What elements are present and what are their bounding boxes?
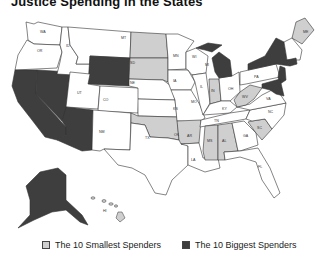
label-hi: HI [103,209,107,213]
state-wy [88,56,130,86]
label-va: VA [266,97,271,101]
label-ia: IA [173,79,177,83]
label-mo: MO [191,100,197,104]
legend-swatch-smallest [42,241,50,249]
label-in: IN [211,89,215,93]
us-map: WA OR ID MT SD NE CO UT NM TX OK AR LA M… [0,0,331,240]
label-id: ID [66,44,70,48]
label-oh: OH [228,87,234,91]
state-nm [92,110,131,151]
label-la: LA [191,158,196,162]
label-ky: KY [222,107,227,111]
state-ny [248,38,290,70]
label-me: ME [303,30,309,34]
label-sc: SC [257,126,262,130]
state-ak [18,168,88,228]
label-co: CO [103,98,109,102]
label-or: OR [37,49,43,53]
state-ar [177,120,201,144]
label-tx: TX [145,136,150,140]
state-nd [130,32,168,58]
state-hi [91,197,125,222]
label-ks: KS [173,107,178,111]
legend-smallest: The 10 Smallest Spenders [42,240,161,250]
label-il: IL [200,85,203,89]
map-legend: The 10 Smallest Spenders The 10 Biggest … [0,240,331,256]
label-mt: MT [121,36,127,40]
legend-label-smallest: The 10 Smallest Spenders [55,240,161,250]
legend-biggest: The 10 Biggest Spenders [182,240,297,250]
label-pa: PA [254,75,259,79]
state-ks [138,99,177,117]
label-mi: MI [205,63,209,67]
label-fl: FL [258,165,262,169]
label-al: AL [222,139,226,143]
label-ar: AR [187,134,192,138]
state-wi [186,48,208,75]
label-ne: NE [130,81,136,85]
label-ga: GA [243,134,249,138]
state-fl [224,148,280,198]
label-mn: MN [173,54,179,58]
label-sd: SD [130,61,135,65]
label-nc: NC [268,110,274,114]
label-wi: WI [192,55,196,59]
legend-swatch-biggest [182,241,190,249]
label-wv: WV [242,95,248,99]
label-wa: WA [40,30,46,34]
label-tn: TN [214,119,219,123]
label-ms: MS [207,139,213,143]
label-ok: OK [174,133,180,137]
label-nm: NM [99,130,105,134]
legend-label-biggest: The 10 Biggest Spenders [195,240,297,250]
label-ut: UT [77,91,83,95]
